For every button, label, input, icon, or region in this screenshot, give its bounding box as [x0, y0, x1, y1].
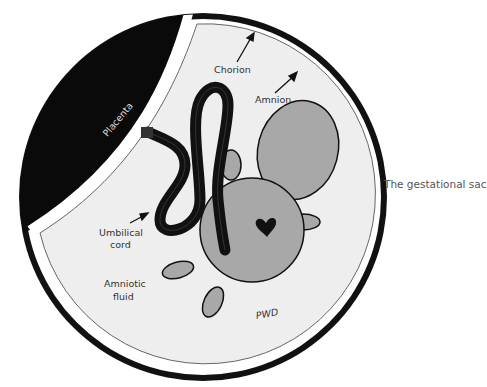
umbilical-cord-label-2: cord	[110, 239, 131, 250]
umbilical-cord-label-1: Umbilical	[99, 227, 143, 238]
amniotic-fluid-label-2: fluid	[113, 291, 134, 302]
diagram-caption: The gestational sac	[384, 178, 487, 190]
chorion-label: Chorion	[214, 64, 251, 75]
amniotic-fluid-label-1: Amniotic	[104, 278, 146, 289]
amnion-label: Amnion	[255, 94, 291, 105]
